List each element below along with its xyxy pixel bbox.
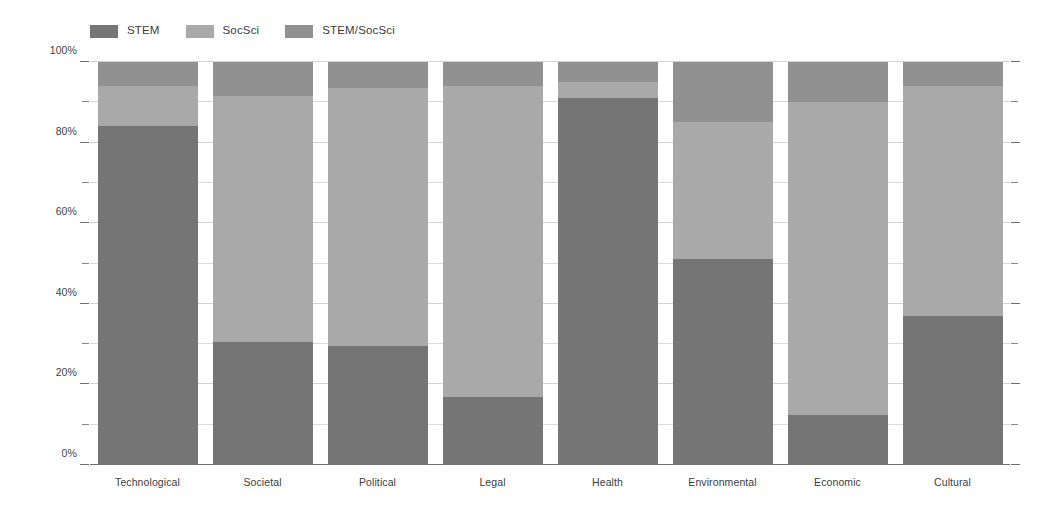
- bar-group-health[interactable]: Health: [558, 62, 658, 465]
- y-axis-label-60pct: 60%: [56, 205, 77, 217]
- bar-segment-socsci[interactable]: [903, 86, 1003, 316]
- bar-group-environmental[interactable]: Environmental: [673, 62, 773, 465]
- bar-segment-stem-socsci[interactable]: [903, 62, 1003, 86]
- bar-segment-socsci[interactable]: [98, 86, 198, 126]
- y-tick-right-40pct: [1011, 303, 1020, 304]
- plot-right-border: [1009, 62, 1010, 465]
- bar-stack: [558, 62, 658, 465]
- y-tick-60pct: [80, 222, 89, 223]
- y-tick-right-60pct: [1011, 222, 1020, 223]
- bar-stack: [213, 62, 313, 465]
- bar-segment-socsci[interactable]: [673, 122, 773, 259]
- x-axis-label-health: Health: [592, 476, 623, 488]
- y-tick-minor-50: [82, 263, 89, 264]
- legend-swatch-stem: [90, 25, 118, 38]
- bar-segment-stem-socsci[interactable]: [213, 62, 313, 96]
- bar-segment-stem-socsci[interactable]: [443, 62, 543, 86]
- bar-segment-socsci[interactable]: [558, 82, 658, 98]
- legend-swatch-stem-socsci: [285, 25, 313, 38]
- bar-segment-socsci[interactable]: [213, 96, 313, 342]
- bar-segment-stem[interactable]: [98, 126, 198, 465]
- bar-segment-socsci[interactable]: [328, 88, 428, 346]
- y-tick-40pct: [80, 303, 89, 304]
- bar-group-cultural[interactable]: Cultural: [903, 62, 1003, 465]
- bar-stack: [328, 62, 428, 465]
- y-tick-minor-right-90: [1011, 101, 1018, 102]
- x-axis-label-societal: Societal: [243, 476, 281, 488]
- x-axis-label-technological: Technological: [115, 476, 180, 488]
- legend-item-stem[interactable]: STEM: [90, 25, 160, 38]
- stacked-bar-chart: STEM SocSci STEM/SocSci 0%20%40%60%80%10…: [0, 0, 1062, 507]
- bar-segment-stem[interactable]: [558, 98, 658, 465]
- bar-segment-stem-socsci[interactable]: [673, 62, 773, 122]
- bar-group-economic[interactable]: Economic: [788, 62, 888, 465]
- bar-group-political[interactable]: Political: [328, 62, 428, 465]
- y-tick-minor-70: [82, 182, 89, 183]
- bar-group-societal[interactable]: Societal: [213, 62, 313, 465]
- bar-group-technological[interactable]: Technological: [98, 62, 198, 465]
- y-tick-right-0pct: [1011, 464, 1020, 465]
- x-axis-label-legal: Legal: [479, 476, 505, 488]
- bar-segment-stem[interactable]: [673, 259, 773, 465]
- bar-stack: [673, 62, 773, 465]
- bars-layer: TechnologicalSocietalPoliticalLegalHealt…: [90, 62, 1010, 465]
- chart-legend: STEM SocSci STEM/SocSci: [90, 22, 395, 40]
- y-axis-label-0pct: 0%: [62, 447, 77, 459]
- x-axis-label-political: Political: [359, 476, 396, 488]
- x-axis-label-environmental: Environmental: [688, 476, 756, 488]
- y-tick-minor-right-70: [1011, 182, 1018, 183]
- legend-label-stem-socsci: STEM/SocSci: [322, 25, 395, 37]
- bar-segment-socsci[interactable]: [443, 86, 543, 396]
- y-tick-right-20pct: [1011, 383, 1020, 384]
- bar-stack: [443, 62, 543, 465]
- bar-segment-stem-socsci[interactable]: [558, 62, 658, 82]
- bar-segment-stem[interactable]: [443, 397, 543, 466]
- legend-item-socsci[interactable]: SocSci: [186, 25, 260, 38]
- y-tick-right-100pct: [1011, 61, 1020, 62]
- y-axis-label-80pct: 80%: [56, 125, 77, 137]
- bar-stack: [903, 62, 1003, 465]
- bar-group-legal[interactable]: Legal: [443, 62, 543, 465]
- legend-label-socsci: SocSci: [223, 25, 260, 37]
- bar-stack: [788, 62, 888, 465]
- legend-item-stem-socsci[interactable]: STEM/SocSci: [285, 25, 395, 38]
- bar-segment-stem[interactable]: [903, 316, 1003, 465]
- y-tick-0pct: [80, 464, 89, 465]
- y-tick-80pct: [80, 142, 89, 143]
- y-tick-minor-right-10: [1011, 424, 1018, 425]
- x-axis-label-economic: Economic: [814, 476, 861, 488]
- y-tick-minor-30: [82, 343, 89, 344]
- y-tick-right-80pct: [1011, 142, 1020, 143]
- y-tick-100pct: [80, 61, 89, 62]
- bar-segment-stem-socsci[interactable]: [788, 62, 888, 102]
- legend-label-stem: STEM: [127, 25, 160, 37]
- bar-segment-stem-socsci[interactable]: [328, 62, 428, 88]
- y-axis-label-100pct: 100%: [50, 44, 77, 56]
- y-axis-label-40pct: 40%: [56, 286, 77, 298]
- y-tick-minor-10: [82, 424, 89, 425]
- bar-segment-stem[interactable]: [213, 342, 313, 465]
- bar-segment-socsci[interactable]: [788, 102, 888, 414]
- y-tick-minor-90: [82, 101, 89, 102]
- y-tick-minor-right-30: [1011, 343, 1018, 344]
- bar-segment-stem[interactable]: [788, 415, 888, 465]
- bar-segment-stem[interactable]: [328, 346, 428, 465]
- x-axis-label-cultural: Cultural: [934, 476, 971, 488]
- bar-segment-stem-socsci[interactable]: [98, 62, 198, 86]
- plot-area: 0%20%40%60%80%100% TechnologicalSocietal…: [90, 62, 1010, 465]
- legend-swatch-socsci: [186, 25, 214, 38]
- y-axis-label-20pct: 20%: [56, 366, 77, 378]
- bar-stack: [98, 62, 198, 465]
- y-tick-20pct: [80, 383, 89, 384]
- y-tick-minor-right-50: [1011, 263, 1018, 264]
